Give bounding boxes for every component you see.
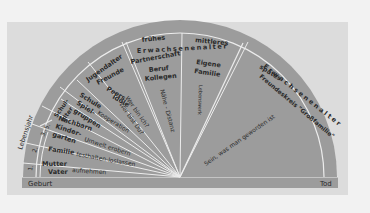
wedge-7-task: Lebenswerk	[197, 85, 204, 115]
birth-label: Geburt	[28, 180, 52, 188]
life-stage-wheel: Geburt Tod Lebensjahr 1. 2. 3.-5. Schul-…	[0, 0, 370, 213]
baseline-band	[22, 177, 338, 188]
death-label: Tod	[319, 180, 332, 188]
wedge-1-group-1: Mutter	[42, 160, 68, 168]
wedge-1-group-2: Vater	[48, 168, 69, 176]
